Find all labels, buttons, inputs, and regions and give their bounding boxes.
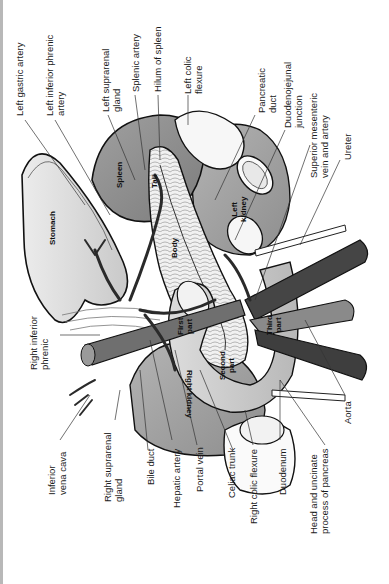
organ-label-third-part: Thirdpart [265,315,283,335]
organ-label-body: Body [170,238,179,258]
label-left-colic-flexure: Left colicflexure [182,57,204,95]
label-ureter: Ureter [342,134,353,160]
label-right-inferior-phrenic: Right inferiorphrenic [28,316,50,370]
label-celiac-trunk: Celiac trunk [226,448,237,498]
label-aorta: Aorta [342,401,353,424]
label-left-suprarenal-gland: Left suprarenalgland [100,49,122,112]
organ-label-spleen: Spleen [115,162,124,188]
label-portal-vein: Portal vein [194,447,205,492]
organ-label-first-part: Firstpart [176,318,194,335]
organ-label-stomach: Stomach [48,211,57,245]
label-splenic-artery: Splenic artery [130,34,141,92]
label-left-gastric-artery: Left gastric artery [14,43,25,116]
label-pancreatic-duct: Pancreaticduct [256,68,278,113]
label-head-and-uncinate-process: Head and uncinateprocess of pancreas [308,448,330,534]
organ-label-tail: Tail [150,175,159,188]
organ-label-right-kidney: Right kidney [185,370,194,418]
label-duodenum: Duodenum [277,449,288,495]
label-bile-duct: Bile duct [145,449,156,485]
label-duodenojejunal-junction: Duodenojejunaljunction [282,62,304,128]
label-hilum-of-spleen: Hilum of spleen [152,27,163,92]
label-inferior-vena-cava: Inferiorvena cava [46,452,68,495]
label-right-suprarenal-gland: Right suprarenalgland [102,432,124,502]
organ-label-left-kidney: Leftkidney [230,197,248,222]
label-superior-mesenteric-vein-and-artery: Superior mesentericvein and artery [308,93,330,178]
organ-label-second-part: Secondpart [218,351,236,380]
label-right-colic-flexure: Right colic flexure [248,449,259,524]
label-left-inferior-phrenic-artery: Left inferior phrenicartery [44,35,66,116]
label-hepatic-artery: Hepatic artery [171,449,182,508]
